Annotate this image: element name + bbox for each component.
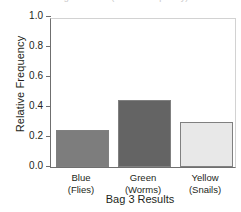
bar-blue	[56, 130, 109, 168]
y-axis-tick: 1.0	[46, 16, 51, 17]
y-axis-tick-label: 0.6	[29, 70, 43, 81]
x-tick-name: Green	[117, 172, 170, 184]
y-axis-tick: 0.8	[46, 46, 51, 47]
bar-chart-figure: Bag 3 Results (relative frequency) Relat…	[0, 0, 241, 212]
y-axis-tick-label: 0.0	[29, 160, 43, 171]
x-axis-tick-label: Yellow(Snails)	[179, 172, 232, 195]
y-axis-tick-label: 0.4	[29, 100, 43, 111]
plot-area: 0.00.20.40.60.81.0	[50, 18, 236, 168]
y-axis-tick-label: 0.8	[29, 40, 43, 51]
x-tick-name: Blue	[55, 172, 108, 184]
x-axis-tick-label: Green(Worms)	[117, 172, 170, 195]
x-tick-name: Yellow	[179, 172, 232, 184]
y-axis-title: Relative Frequency	[14, 4, 26, 164]
x-axis-tick-label: Blue(Flies)	[55, 172, 108, 195]
y-axis-tick: 0.2	[46, 136, 51, 137]
y-axis-tick: 0.6	[46, 76, 51, 77]
y-axis-tick-label: 1.0	[29, 10, 43, 21]
bar-yellow	[180, 122, 233, 167]
x-axis-title: Bag 3 Results	[45, 193, 235, 205]
y-axis-tick: 0.0	[46, 166, 51, 167]
bar-green	[118, 100, 171, 168]
y-axis-tick: 0.4	[46, 106, 51, 107]
y-axis-tick-label: 0.2	[29, 130, 43, 141]
chart-title: Bag 3 Results (relative frequency)	[0, 0, 241, 2]
